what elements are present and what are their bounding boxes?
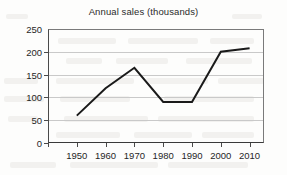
x-tick-label-2010: 2010 — [239, 150, 260, 161]
sales-line-series — [48, 29, 264, 143]
x-tick-mark — [163, 143, 164, 147]
x-tick-mark — [192, 143, 193, 147]
plot-area — [48, 29, 264, 143]
scan-artifact — [10, 162, 56, 168]
x-tick-mark — [77, 143, 78, 147]
scan-artifact — [70, 162, 158, 168]
x-tick-mark — [221, 143, 222, 147]
x-tick-mark — [48, 143, 49, 147]
chart-title: Annual sales (thousands) — [0, 6, 287, 17]
x-tick-mark — [250, 143, 251, 147]
x-tick-mark — [134, 143, 135, 147]
y-tick-label-50: 50 — [8, 115, 42, 126]
y-tick-label-100: 100 — [8, 92, 42, 103]
x-tick-label-1990: 1990 — [181, 150, 202, 161]
x-tick-label-1960: 1960 — [95, 150, 116, 161]
x-tick-label-1980: 1980 — [153, 150, 174, 161]
y-tick-label-150: 150 — [8, 69, 42, 80]
scan-artifact — [168, 162, 248, 168]
x-tick-mark — [106, 143, 107, 147]
y-tick-label-200: 200 — [8, 46, 42, 57]
y-tick-label-250: 250 — [8, 24, 42, 35]
chart-screenshot: Annual sales (thousands) 250 200 150 100… — [0, 0, 287, 175]
x-tick-label-1970: 1970 — [124, 150, 145, 161]
x-tick-label-1950: 1950 — [66, 150, 87, 161]
x-tick-label-2000: 2000 — [210, 150, 231, 161]
y-tick-label-0: 0 — [8, 138, 42, 149]
